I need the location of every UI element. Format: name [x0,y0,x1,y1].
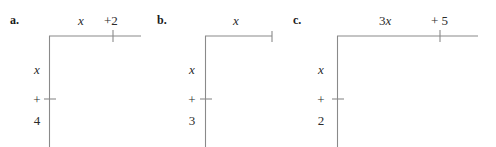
diagram-panel-c: c. 3x + 5 x + 2 [290,0,496,147]
panel-c-lines [290,0,496,147]
diagram-panel-a: a. x +2 x + 4 [0,0,150,147]
panel-a-lines [0,0,150,147]
diagram-panel-b: b. x x + 3 [150,0,290,147]
algebra-diagram-figure: a. x +2 x + 4 b. x x + 3 [0,0,496,147]
panel-b-lines [150,0,290,147]
